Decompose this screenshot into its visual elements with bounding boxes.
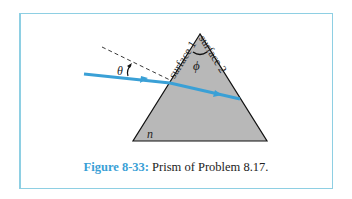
caption-label: Figure 8-33: xyxy=(84,160,149,174)
phi-label: ϕ xyxy=(193,58,200,74)
incident-ray xyxy=(84,74,170,83)
n-label: n xyxy=(147,127,153,142)
theta-label: θ xyxy=(117,64,123,79)
caption-text: Prism of Problem 8.17. xyxy=(152,160,268,174)
prism xyxy=(133,34,267,141)
figure-caption: Figure 8-33: Prism of Problem 8.17. xyxy=(0,160,352,175)
normal-dashed-line xyxy=(102,47,170,80)
